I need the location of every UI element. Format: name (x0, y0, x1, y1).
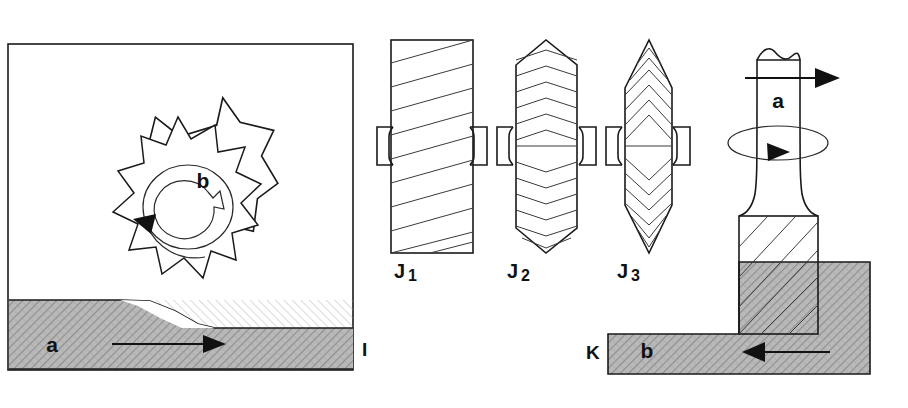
cutter-j2-label-sub: 2 (521, 267, 530, 284)
panel-k-endmill-shank (739, 60, 818, 216)
cutter-j3-teeth (625, 48, 672, 247)
cutter-j1-label: J (394, 260, 405, 282)
cutter-j1-group: J 1 (377, 40, 487, 284)
panel-k-workpiece-label: b (641, 339, 654, 362)
cutter-j1-label-sub: 1 (408, 267, 417, 284)
panel-i-label: I (362, 339, 367, 360)
panel-k-spindle-label: a (772, 89, 784, 112)
cutter-j3-label-sub: 3 (631, 267, 640, 284)
cutter-j1-body (391, 40, 473, 253)
cutter-j1-teeth (391, 40, 473, 253)
cutter-j3-group: J 3 (606, 40, 690, 284)
cutter-j2-teeth (516, 50, 577, 248)
panel-i-workpiece (9, 300, 353, 369)
panel-i-workpiece-label: a (46, 333, 58, 356)
panel-i-cutter-label: b (197, 169, 210, 192)
cutter-j3-label: J (617, 260, 628, 282)
panel-i-group: b a I (8, 44, 367, 370)
panel-k-axis-arrow (745, 68, 840, 88)
panel-k-rotation-arrowhead (767, 143, 790, 161)
figure-root: b a I (0, 0, 908, 408)
milling-diagram-svg: b a I (0, 0, 908, 408)
panel-k-label: K (586, 342, 600, 363)
cutter-j2-group: J 2 (497, 40, 596, 284)
panel-k-shank-break-line (757, 49, 800, 60)
cutter-j2-label: J (507, 260, 518, 282)
